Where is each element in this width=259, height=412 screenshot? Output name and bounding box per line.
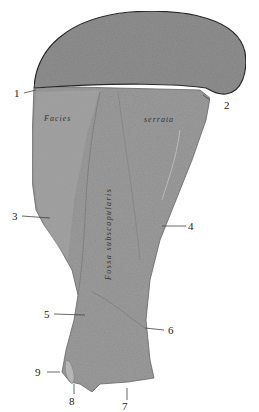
label-1: 1 [14,88,20,99]
label-8: 8 [69,396,75,407]
label-3: 3 [12,211,18,222]
term-fossa-subscapularis: Fossa subscapularis [104,188,113,280]
label-5: 5 [44,309,50,320]
scapula-illustration [0,0,259,412]
label-7: 7 [122,401,128,412]
bone-cap [34,11,246,94]
term-serrata: serrata [144,115,174,124]
label-2: 2 [224,100,230,111]
label-6: 6 [168,325,174,336]
term-facies: Facies [44,114,71,123]
anatomical-figure: Facies serrata Fossa subscapularis 1 2 3… [0,0,259,412]
label-9: 9 [35,367,41,378]
label-4: 4 [188,221,194,232]
